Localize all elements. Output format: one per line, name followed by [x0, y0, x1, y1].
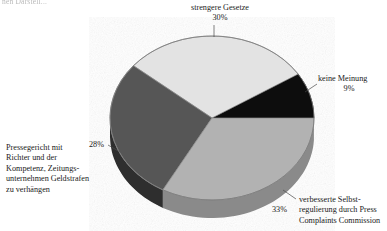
label-selbstregulierung-line2: regulierung durch Press	[299, 205, 387, 215]
figure-canvas: nen Darstell...	[0, 0, 387, 231]
label-pressegericht-line5: zu verhängen	[6, 185, 118, 195]
leader-line-selbst	[283, 190, 296, 199]
label-selbstregulierung-line1: verbesserte Selbst-	[299, 195, 387, 205]
label-strengere-gesetze: strengere Gesetze 30%	[160, 3, 280, 24]
label-keine-meinung-percent: 9%	[318, 84, 380, 94]
label-keine-meinung: keine Meinung 9%	[318, 74, 387, 95]
label-pressegericht-line2: Richter und der	[6, 153, 118, 163]
label-pressegericht-line4: unternehmen Geldstrafen	[6, 174, 118, 184]
label-strengere-gesetze-percent: 30%	[160, 13, 280, 23]
label-selbstregulierung-percent: 33%	[272, 205, 287, 215]
label-keine-meinung-text: keine Meinung	[318, 74, 387, 84]
label-selbstregulierung-line3: Complaints Commission	[299, 216, 387, 226]
pie-top-face	[110, 36, 314, 200]
label-pressegericht-percent: 28%	[89, 140, 104, 150]
label-pressegericht: Pressegericht mit Richter und der Kompet…	[6, 143, 118, 195]
label-selbstregulierung: verbesserte Selbst- regulierung durch Pr…	[299, 195, 387, 226]
label-strengere-gesetze-text: strengere Gesetze	[160, 3, 280, 13]
label-pressegericht-line3: Kompetenz, Zeitungs-	[6, 164, 118, 174]
